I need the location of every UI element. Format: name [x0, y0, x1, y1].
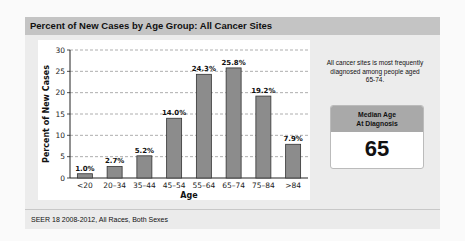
bar — [226, 68, 241, 178]
x-tick-label: 55–64 — [192, 181, 215, 190]
panel-title: Percent of New Cases by Age Group: All C… — [25, 17, 440, 35]
bar — [137, 156, 152, 178]
bar — [167, 118, 182, 178]
bar-value-label: 7.9% — [283, 135, 302, 143]
bar-value-label: 19.2% — [251, 87, 275, 95]
median-age-value: 65 — [331, 132, 423, 166]
y-tick-label: 30 — [55, 46, 65, 55]
bar-value-label: 2.7% — [105, 157, 124, 165]
bar — [77, 174, 92, 178]
bar — [107, 166, 122, 178]
bar — [286, 144, 301, 178]
y-tick-label: 20 — [55, 88, 65, 97]
y-tick-label: 10 — [55, 131, 65, 140]
y-tick-label: 25 — [55, 67, 65, 76]
data-source-footer: SEER 18 2008-2012, All Races, Both Sexes — [25, 209, 440, 229]
chart-panel: Percent of New Cases by Age Group: All C… — [25, 17, 440, 229]
x-tick-label: <20 — [77, 181, 93, 190]
bar-value-label: 5.2% — [135, 147, 154, 155]
x-tick-label: 35–44 — [133, 181, 156, 190]
bar-chart: 0510152025301.0%<202.7%20–345.2%35–4414.… — [38, 40, 310, 200]
x-tick-label: 45–54 — [163, 181, 186, 190]
bar-value-label: 1.0% — [75, 165, 94, 173]
chart-svg: 0510152025301.0%<202.7%20–345.2%35–4414.… — [38, 40, 310, 200]
x-tick-label: 20–34 — [103, 181, 126, 190]
median-age-card: Median Age At Diagnosis 65 — [330, 105, 424, 169]
bar — [196, 74, 211, 178]
bar-value-label: 24.3% — [192, 65, 216, 73]
median-title-line2: At Diagnosis — [331, 119, 423, 128]
y-tick-label: 0 — [60, 174, 65, 183]
median-card-title: Median Age At Diagnosis — [331, 106, 423, 132]
summary-note: All cancer sites is most frequently diag… — [325, 59, 425, 85]
bar-value-label: 14.0% — [162, 109, 186, 117]
y-axis-title: Percent of New Cases — [42, 65, 51, 163]
x-tick-label: 65–74 — [222, 181, 245, 190]
x-axis-title: Age — [180, 191, 198, 200]
bar-value-label: 25.8% — [221, 59, 245, 67]
median-title-line1: Median Age — [331, 110, 423, 119]
x-tick-label: 75–84 — [252, 181, 275, 190]
x-tick-label: >84 — [285, 181, 301, 190]
bar — [256, 96, 271, 178]
y-tick-label: 5 — [60, 152, 65, 161]
y-tick-label: 15 — [55, 110, 65, 119]
